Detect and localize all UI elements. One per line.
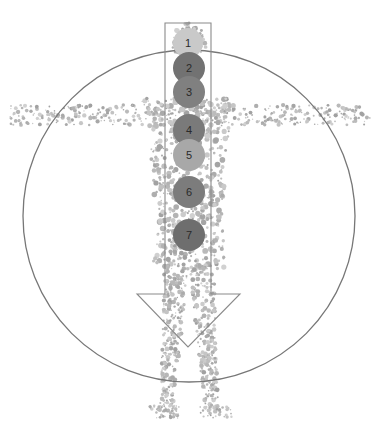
chakra-marker-label: 6 — [186, 186, 192, 198]
chakra-marker-label: 3 — [186, 86, 192, 98]
chakra-marker-label: 2 — [186, 62, 192, 74]
chakra-marker-label: 5 — [186, 149, 192, 161]
chakra-marker-label: 1 — [185, 37, 191, 49]
chakra-marker-label: 7 — [186, 229, 192, 241]
chakra-marker-label: 4 — [186, 124, 192, 136]
chakra-diagram: 1234567 — [0, 0, 389, 438]
